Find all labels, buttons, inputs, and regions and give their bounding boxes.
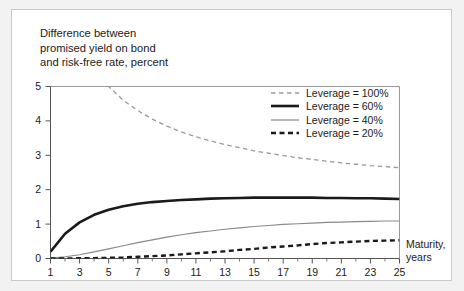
y-tick-label: 0 [35, 252, 41, 264]
x-axis-ticks [51, 259, 400, 264]
series-line [51, 0, 400, 168]
legend-swatch-solid-thin-icon [271, 114, 299, 126]
series-line [51, 240, 400, 258]
figure-panel: Difference between promised yield on bon… [11, 9, 452, 281]
y-tick-label: 5 [35, 80, 41, 92]
x-tick-label: 15 [248, 266, 260, 278]
legend-item[interactable]: Leverage = 100% [271, 86, 401, 100]
x-tick-label: 17 [277, 266, 289, 278]
legend-swatch-dashed-thick-icon [271, 127, 299, 139]
x-tick-label: 7 [135, 266, 141, 278]
x-tick-label: 13 [219, 266, 231, 278]
legend-swatch-solid-thick-icon [271, 100, 299, 112]
x-tick-label: 21 [335, 266, 347, 278]
x-tick-label: 23 [365, 266, 377, 278]
x-tick-label: 9 [164, 266, 170, 278]
legend-swatch-dashed-thin-icon [271, 87, 299, 99]
y-tick-label: 4 [35, 114, 41, 126]
x-tick-label: 1 [48, 266, 54, 278]
y-tick-label: 2 [35, 183, 41, 195]
x-axis-labels: 135791113151719212325 [48, 266, 406, 278]
x-tick-label: 19 [306, 266, 318, 278]
y-axis-labels: 0 1 2 3 4 5 [35, 80, 41, 264]
legend-item[interactable]: Leverage = 40% [271, 113, 401, 127]
plot-area: 0 1 2 3 4 5 135791113151719212325 [12, 10, 464, 291]
series-line [51, 221, 400, 258]
figure-root: Difference between promised yield on bon… [0, 0, 464, 291]
legend-label: Leverage = 20% [306, 127, 383, 139]
y-tick-label: 3 [35, 149, 41, 161]
legend-item[interactable]: Leverage = 60% [271, 100, 401, 114]
x-tick-label: 25 [394, 266, 406, 278]
legend-item[interactable]: Leverage = 20% [271, 127, 401, 141]
legend-label: Leverage = 60% [306, 100, 383, 112]
x-axis-title: Maturity, years [406, 238, 445, 263]
series-line [51, 198, 400, 252]
x-tick-label: 5 [106, 266, 112, 278]
legend-label: Leverage = 100% [306, 87, 389, 99]
y-tick-label: 1 [35, 218, 41, 230]
x-tick-label: 11 [190, 266, 201, 278]
legend-label: Leverage = 40% [306, 114, 383, 126]
chart-legend: Leverage = 100% Leverage = 60% Leverage … [271, 86, 401, 140]
x-tick-label: 3 [77, 266, 83, 278]
y-axis-ticks [46, 87, 51, 259]
